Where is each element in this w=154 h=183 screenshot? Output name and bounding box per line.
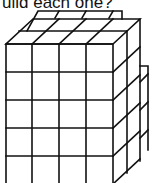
side-step xyxy=(140,66,148,150)
top-face xyxy=(6,19,140,44)
cube-stack-figure xyxy=(0,0,154,183)
back-strip xyxy=(27,11,122,31)
right-face xyxy=(113,19,140,183)
front-face xyxy=(6,44,113,183)
